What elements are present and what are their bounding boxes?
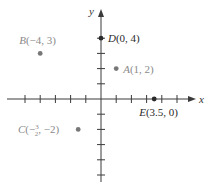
point-e xyxy=(152,97,157,102)
y-axis-arrow-icon xyxy=(98,9,104,17)
point-label-c: C(−32, −2) xyxy=(18,123,59,138)
point-labels: A(1, 2)B(−4, 3)C(−32, −2)D(0, 4)E(3.5, 0… xyxy=(18,32,178,138)
point-d xyxy=(99,36,104,41)
y-axis-label: y xyxy=(88,5,94,17)
point-a xyxy=(114,66,119,71)
x-axis-arrow-icon xyxy=(188,96,196,102)
point-c xyxy=(76,127,81,132)
coordinate-plane: xy A(1, 2)B(−4, 3)C(−32, −2)D(0, 4)E(3.5… xyxy=(0,0,209,189)
x-axis-label: x xyxy=(198,93,204,105)
point-label-d: D(0, 4) xyxy=(107,32,140,45)
point-label-e: E(3.5, 0) xyxy=(138,106,178,119)
point-b xyxy=(38,51,43,56)
point-label-b: B(−4, 3) xyxy=(19,34,56,47)
axes: xy xyxy=(7,5,204,182)
point-label-a: A(1, 2) xyxy=(122,63,154,76)
